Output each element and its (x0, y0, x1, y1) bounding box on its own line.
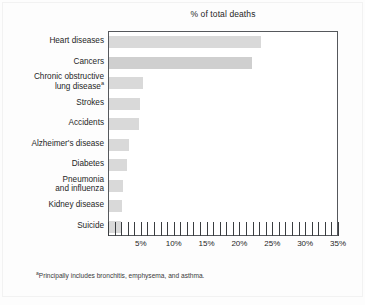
axis-tick-label: 30% (297, 239, 313, 248)
bar (109, 180, 123, 192)
x-axis-tick-labels: 5%10%15%20%25%30%35% (108, 239, 338, 251)
axis-tick (154, 222, 155, 236)
axis-tick-label: 5% (135, 239, 147, 248)
category-label-line: and influenza (0, 184, 104, 194)
axis-tick (141, 222, 142, 236)
axis-tick (292, 222, 293, 236)
axis-tick (239, 222, 240, 236)
category-label-line: lung diseasea (0, 82, 104, 92)
bar (109, 36, 261, 48)
axis-tick-label: 10% (166, 239, 182, 248)
footnote-text: Principally includes bronchitis, emphyse… (39, 272, 205, 279)
axis-tick-label: 15% (199, 239, 215, 248)
axis-tick-label: 25% (264, 239, 280, 248)
category-label: Alzheimer's disease (0, 139, 104, 149)
axis-tick (128, 222, 129, 236)
category-label-line: Strokes (0, 98, 104, 108)
axis-tick (226, 222, 227, 236)
axis-tick (207, 222, 208, 236)
bar-row (109, 159, 127, 171)
bar (109, 118, 139, 130)
figure-container: % of total deaths Heart diseasesCancersC… (0, 0, 365, 305)
category-label: Strokes (0, 98, 104, 108)
axis-tick (299, 222, 300, 236)
axis-tick (180, 222, 181, 236)
category-label: Accidents (0, 118, 104, 128)
category-label: Suicide (0, 221, 104, 231)
bar-row (109, 36, 261, 48)
category-label: Pneumoniaand influenza (0, 175, 104, 194)
axis-tick (259, 222, 260, 236)
category-label-line: Heart diseases (0, 36, 104, 46)
axis-tick (272, 222, 273, 236)
category-label: Chronic obstructivelung diseasea (0, 72, 104, 91)
category-label-line: Diabetes (0, 159, 104, 169)
category-label-line: Cancers (0, 57, 104, 67)
axis-tick (338, 222, 339, 236)
axis-tick (318, 222, 319, 236)
axis-tick (121, 222, 122, 236)
axis-tick (167, 222, 168, 236)
bar-row (109, 200, 122, 212)
axis-tick (253, 222, 254, 236)
axis-tick (246, 222, 247, 236)
axis-tick (108, 222, 109, 236)
bar (109, 98, 140, 110)
axis-tick (174, 222, 175, 236)
category-label: Diabetes (0, 159, 104, 169)
footnote: aPrincipally includes bronchitis, emphys… (36, 272, 204, 279)
category-label: Cancers (0, 57, 104, 67)
bar-row (109, 118, 139, 130)
axis-tick (305, 222, 306, 236)
bar (109, 159, 127, 171)
axis-tick (220, 222, 221, 236)
axis-tick (213, 222, 214, 236)
axis-tick (115, 222, 116, 236)
axis-tick (187, 222, 188, 236)
category-label: Heart diseases (0, 36, 104, 46)
axis-tick (161, 222, 162, 236)
category-label-line: Pneumonia (0, 175, 104, 185)
bar-row (109, 77, 143, 89)
axis-tick (285, 222, 286, 236)
axis-tick (279, 222, 280, 236)
axis-tick (325, 222, 326, 236)
axis-tick-label: 35% (330, 239, 346, 248)
bar (109, 57, 252, 69)
chart-title: % of total deaths (108, 9, 338, 19)
bar-row (109, 57, 252, 69)
footnote-ref-marker: a (101, 80, 104, 86)
bar (109, 200, 122, 212)
axis-tick (200, 222, 201, 236)
x-axis-ticks (108, 222, 338, 236)
category-label-line: Alzheimer's disease (0, 139, 104, 149)
axis-tick (147, 222, 148, 236)
axis-tick (193, 222, 194, 236)
axis-tick (134, 222, 135, 236)
category-label-line: Accidents (0, 118, 104, 128)
bar-row (109, 98, 140, 110)
bar-row (109, 180, 123, 192)
category-label-line: Chronic obstructive (0, 72, 104, 82)
plot-area (108, 31, 338, 236)
bar-row (109, 139, 129, 151)
axis-tick (331, 222, 332, 236)
bar (109, 77, 143, 89)
bar (109, 139, 129, 151)
bars-layer (109, 32, 337, 235)
category-label: Kidney disease (0, 200, 104, 210)
axis-tick (266, 222, 267, 236)
axis-tick (233, 222, 234, 236)
category-axis-labels: Heart diseasesCancersChronic obstructive… (0, 31, 104, 236)
axis-tick (312, 222, 313, 236)
category-label-line: Suicide (0, 221, 104, 231)
category-label-line: Kidney disease (0, 200, 104, 210)
axis-tick-label: 20% (231, 239, 247, 248)
